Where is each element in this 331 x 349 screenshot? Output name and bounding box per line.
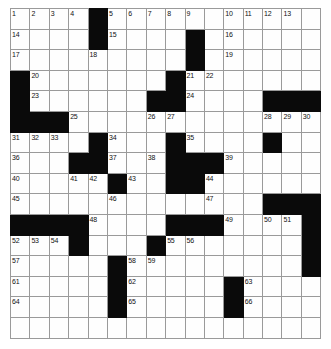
crossword-cell[interactable]: 34: [107, 132, 126, 153]
crossword-cell[interactable]: 52: [11, 235, 30, 256]
crossword-cell[interactable]: [107, 50, 126, 71]
crossword-cell[interactable]: 37: [107, 153, 126, 174]
crossword-cell[interactable]: [282, 29, 301, 50]
crossword-cell[interactable]: [88, 317, 107, 338]
crossword-cell[interactable]: [49, 317, 68, 338]
crossword-cell[interactable]: [243, 317, 262, 338]
crossword-cell[interactable]: [146, 132, 165, 153]
crossword-cell[interactable]: 48: [88, 214, 107, 235]
crossword-cell[interactable]: [127, 317, 146, 338]
crossword-cell[interactable]: 16: [224, 29, 243, 50]
crossword-cell[interactable]: [301, 29, 320, 50]
crossword-cell[interactable]: 17: [11, 50, 30, 71]
crossword-cell[interactable]: [301, 153, 320, 174]
crossword-cell[interactable]: [263, 50, 282, 71]
crossword-cell[interactable]: 27: [166, 111, 185, 132]
crossword-cell[interactable]: 31: [11, 132, 30, 153]
crossword-cell[interactable]: [69, 91, 88, 112]
crossword-cell[interactable]: [88, 91, 107, 112]
crossword-cell[interactable]: 19: [224, 50, 243, 71]
crossword-cell[interactable]: [166, 297, 185, 318]
crossword-cell[interactable]: [166, 194, 185, 215]
crossword-cell[interactable]: [243, 173, 262, 194]
crossword-cell[interactable]: [69, 317, 88, 338]
crossword-cell[interactable]: [30, 173, 49, 194]
crossword-cell[interactable]: [282, 297, 301, 318]
crossword-cell[interactable]: 23: [30, 91, 49, 112]
crossword-cell[interactable]: 45: [11, 194, 30, 215]
crossword-cell[interactable]: [185, 317, 204, 338]
crossword-cell[interactable]: [204, 9, 223, 30]
crossword-cell[interactable]: 15: [107, 29, 126, 50]
crossword-cell[interactable]: [146, 70, 165, 91]
crossword-cell[interactable]: [243, 153, 262, 174]
crossword-cell[interactable]: [204, 111, 223, 132]
crossword-cell[interactable]: [30, 29, 49, 50]
crossword-cell[interactable]: [107, 317, 126, 338]
crossword-cell[interactable]: [224, 256, 243, 277]
crossword-cell[interactable]: [166, 276, 185, 297]
crossword-cell[interactable]: 10: [224, 9, 243, 30]
crossword-cell[interactable]: 53: [30, 235, 49, 256]
crossword-cell[interactable]: [301, 50, 320, 71]
crossword-cell[interactable]: [263, 173, 282, 194]
crossword-cell[interactable]: [185, 297, 204, 318]
crossword-cell[interactable]: [282, 50, 301, 71]
crossword-cell[interactable]: [166, 317, 185, 338]
crossword-cell[interactable]: [301, 173, 320, 194]
crossword-cell[interactable]: [88, 297, 107, 318]
crossword-cell[interactable]: [243, 132, 262, 153]
crossword-cell[interactable]: [49, 29, 68, 50]
crossword-cell[interactable]: [127, 111, 146, 132]
crossword-cell[interactable]: [263, 235, 282, 256]
crossword-cell[interactable]: [204, 29, 223, 50]
crossword-cell[interactable]: 35: [185, 132, 204, 153]
crossword-cell[interactable]: 57: [11, 256, 30, 277]
crossword-cell[interactable]: 49: [224, 214, 243, 235]
crossword-cell[interactable]: [224, 194, 243, 215]
crossword-cell[interactable]: [127, 29, 146, 50]
crossword-cell[interactable]: 28: [263, 111, 282, 132]
crossword-cell[interactable]: [166, 29, 185, 50]
crossword-cell[interactable]: [69, 256, 88, 277]
crossword-cell[interactable]: [49, 173, 68, 194]
crossword-cell[interactable]: [146, 276, 165, 297]
crossword-cell[interactable]: 32: [30, 132, 49, 153]
crossword-cell[interactable]: 64: [11, 297, 30, 318]
crossword-cell[interactable]: [11, 317, 30, 338]
crossword-cell[interactable]: 18: [88, 50, 107, 71]
crossword-cell[interactable]: [127, 153, 146, 174]
crossword-cell[interactable]: [30, 256, 49, 277]
crossword-cell[interactable]: [185, 111, 204, 132]
crossword-cell[interactable]: 5: [107, 9, 126, 30]
crossword-cell[interactable]: [243, 111, 262, 132]
crossword-cell[interactable]: [263, 297, 282, 318]
crossword-cell[interactable]: [69, 132, 88, 153]
crossword-cell[interactable]: [30, 194, 49, 215]
crossword-cell[interactable]: [49, 256, 68, 277]
crossword-cell[interactable]: [282, 132, 301, 153]
crossword-cell[interactable]: [127, 214, 146, 235]
crossword-cell[interactable]: [204, 91, 223, 112]
crossword-cell[interactable]: [88, 111, 107, 132]
crossword-cell[interactable]: 13: [282, 9, 301, 30]
crossword-cell[interactable]: 3: [49, 9, 68, 30]
crossword-cell[interactable]: [301, 317, 320, 338]
crossword-cell[interactable]: [49, 91, 68, 112]
crossword-grid[interactable]: 1234567891011121314151617181920212223242…: [10, 8, 321, 339]
crossword-cell[interactable]: 43: [127, 173, 146, 194]
crossword-cell[interactable]: 7: [146, 9, 165, 30]
crossword-cell[interactable]: [185, 276, 204, 297]
crossword-cell[interactable]: [204, 256, 223, 277]
crossword-cell[interactable]: 61: [11, 276, 30, 297]
crossword-cell[interactable]: [263, 153, 282, 174]
crossword-cell[interactable]: 63: [243, 276, 262, 297]
crossword-cell[interactable]: [224, 173, 243, 194]
crossword-cell[interactable]: [49, 70, 68, 91]
crossword-cell[interactable]: [282, 256, 301, 277]
crossword-cell[interactable]: [301, 70, 320, 91]
crossword-cell[interactable]: [146, 194, 165, 215]
crossword-cell[interactable]: 21: [185, 70, 204, 91]
crossword-cell[interactable]: [88, 256, 107, 277]
crossword-cell[interactable]: 30: [301, 111, 320, 132]
